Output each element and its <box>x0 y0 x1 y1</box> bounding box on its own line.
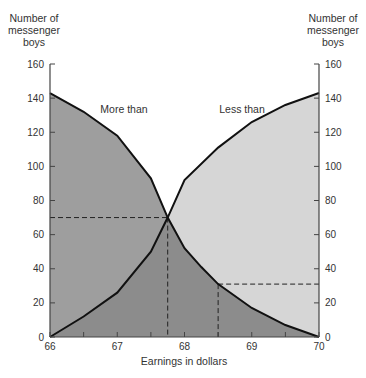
right-y-tick-label: 80 <box>325 195 337 206</box>
right-axis-title: messenger <box>307 24 359 36</box>
left-y-tick-label: 40 <box>33 263 45 274</box>
left-y-tick-label: 160 <box>27 59 44 70</box>
x-tick-label: 66 <box>44 341 56 352</box>
right-y-tick-label: 100 <box>325 161 342 172</box>
less-than-label: Less than <box>219 103 265 115</box>
right-y-tick-label: 120 <box>325 127 342 138</box>
left-y-tick-label: 80 <box>33 195 45 206</box>
x-tick-label: 67 <box>112 341 124 352</box>
left-y-tick-label: 20 <box>33 297 45 308</box>
left-y-tick-label: 140 <box>27 93 44 104</box>
right-y-tick-label: 60 <box>325 229 337 240</box>
x-tick-label: 70 <box>313 341 325 352</box>
left-axis-title: messenger <box>8 24 60 36</box>
more-than-label: More than <box>100 103 147 115</box>
left-axis-title: boys <box>23 36 45 48</box>
x-tick-label: 68 <box>179 341 191 352</box>
ogive-chart: 0020204040606080801001001201201401401601… <box>0 0 366 378</box>
left-y-tick-label: 100 <box>27 161 44 172</box>
left-y-tick-label: 120 <box>27 127 44 138</box>
left-y-tick-label: 60 <box>33 229 45 240</box>
right-y-tick-label: 20 <box>325 297 337 308</box>
x-axis-title: Earnings in dollars <box>141 355 227 367</box>
right-axis-title: boys <box>322 36 344 48</box>
x-tick-label: 69 <box>246 341 258 352</box>
right-axis-title: Number of <box>308 12 357 24</box>
right-y-tick-label: 140 <box>325 93 342 104</box>
right-y-tick-label: 0 <box>325 332 331 343</box>
right-y-tick-label: 160 <box>325 59 342 70</box>
left-axis-title: Number of <box>9 12 58 24</box>
right-y-tick-label: 40 <box>325 263 337 274</box>
